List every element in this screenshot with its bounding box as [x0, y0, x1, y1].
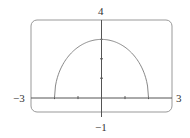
y-max-label: 4	[98, 6, 104, 17]
x-max-label: 3	[176, 93, 182, 104]
y-min-label: −1	[95, 122, 107, 133]
x-min-label: −3	[13, 93, 25, 104]
chart-plot	[0, 0, 190, 138]
